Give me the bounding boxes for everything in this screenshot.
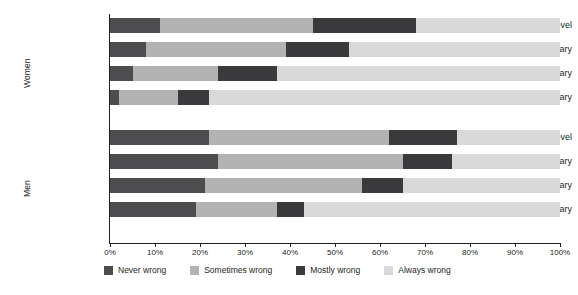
x-axis-tick-mark: [560, 243, 561, 247]
x-axis-tick-mark: [335, 243, 336, 247]
legend-swatch-icon: [384, 266, 393, 275]
bar-segment: [218, 154, 403, 169]
stacked-bar: [110, 66, 560, 81]
x-axis-tick-label: 50%: [327, 249, 343, 257]
legend-item[interactable]: Never wrong: [104, 266, 166, 275]
x-axis-tick-label: 90%: [507, 249, 523, 257]
bar-row: [110, 18, 560, 33]
bar-segment: [218, 66, 277, 81]
stacked-bar: [110, 154, 560, 169]
x-axis-tick-mark: [515, 243, 516, 247]
bar-segment: [304, 202, 561, 217]
bar-row: [110, 42, 560, 57]
legend-swatch-icon: [190, 266, 199, 275]
bar-segment: [110, 90, 119, 105]
stacked-bar: [110, 130, 560, 145]
stacked-bar: [110, 202, 560, 217]
x-axis-tick-label: 70%: [417, 249, 433, 257]
bar-segment: [119, 90, 178, 105]
bar-row: [110, 154, 560, 169]
x-axis-tick-mark: [155, 243, 156, 247]
x-axis-tick-label: 0%: [104, 249, 116, 257]
bar-segment: [110, 178, 205, 193]
bar-segment: [209, 90, 560, 105]
bar-segment: [196, 202, 277, 217]
bar-segment: [178, 90, 210, 105]
x-axis-tick-label: 30%: [237, 249, 253, 257]
bar-segment: [133, 66, 219, 81]
x-axis-tick-mark: [425, 243, 426, 247]
bar-segment: [277, 66, 561, 81]
x-axis-tick-mark: [245, 243, 246, 247]
bar-segment: [277, 202, 304, 217]
legend-item[interactable]: Always wrong: [384, 266, 450, 275]
x-axis-tick-mark: [290, 243, 291, 247]
legend-label: Sometimes wrong: [204, 266, 272, 275]
bar-segment: [416, 18, 560, 33]
stacked-bar-chart: Women Men Third levelUpper secondaryLowe…: [0, 0, 578, 295]
x-axis-tick-mark: [110, 243, 111, 247]
bar-segment: [362, 178, 403, 193]
bar-segment: [205, 178, 363, 193]
x-axis-tick-label: 10%: [147, 249, 163, 257]
chart-legend: Never wrongSometimes wrongMostly wrongAl…: [104, 266, 451, 275]
stacked-bar: [110, 178, 560, 193]
bar-segment: [313, 18, 417, 33]
legend-label: Always wrong: [398, 266, 450, 275]
bar-segment: [110, 154, 218, 169]
x-axis-tick-mark: [380, 243, 381, 247]
bar-segment: [457, 130, 561, 145]
bar-segment: [389, 130, 457, 145]
bar-segment: [110, 66, 133, 81]
stacked-bar: [110, 18, 560, 33]
x-axis-tick-label: 40%: [282, 249, 298, 257]
x-axis-tick-label: 80%: [462, 249, 478, 257]
plot-area: [110, 14, 560, 242]
x-axis-tick-label: 60%: [372, 249, 388, 257]
bar-row: [110, 66, 560, 81]
bar-segment: [452, 154, 560, 169]
bar-row: [110, 90, 560, 105]
bar-segment: [110, 42, 146, 57]
x-axis-tick-mark: [470, 243, 471, 247]
bar-row: [110, 178, 560, 193]
x-axis-tick-label: 20%: [192, 249, 208, 257]
bar-segment: [110, 202, 196, 217]
legend-swatch-icon: [296, 266, 305, 275]
bar-segment: [209, 130, 389, 145]
bar-segment: [110, 18, 160, 33]
legend-label: Never wrong: [118, 266, 166, 275]
x-axis-tick-mark: [200, 243, 201, 247]
bar-segment: [349, 42, 561, 57]
legend-item[interactable]: Mostly wrong: [296, 266, 360, 275]
legend-label: Mostly wrong: [310, 266, 360, 275]
bar-segment: [110, 130, 209, 145]
bar-segment: [286, 42, 349, 57]
bar-segment: [160, 18, 313, 33]
x-axis-tick-label: 100%: [550, 249, 570, 257]
group-axis-title-men: Men: [22, 142, 32, 236]
stacked-bar: [110, 42, 560, 57]
bar-segment: [403, 154, 453, 169]
legend-swatch-icon: [104, 266, 113, 275]
legend-item[interactable]: Sometimes wrong: [190, 266, 272, 275]
bar-segment: [146, 42, 286, 57]
bar-row: [110, 130, 560, 145]
stacked-bar: [110, 90, 560, 105]
group-axis-title-women: Women: [22, 30, 32, 116]
bar-row: [110, 202, 560, 217]
bar-segment: [403, 178, 561, 193]
